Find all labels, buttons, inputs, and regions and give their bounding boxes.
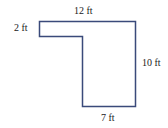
label-left-height: 2 ft — [14, 22, 28, 33]
label-bottom-width: 7 ft — [101, 112, 115, 123]
label-top-width: 12 ft — [74, 5, 93, 16]
shape-polygon — [40, 22, 136, 107]
label-right-height: 10 ft — [142, 57, 161, 68]
